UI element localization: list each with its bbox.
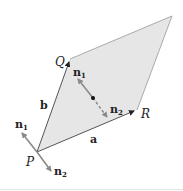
vertex-normal-n1-arrow <box>22 133 37 152</box>
vertex-normal-n2-label: n2 <box>54 165 67 179</box>
vertex-normal-n2-arrow <box>37 152 51 171</box>
vertex-normal-n1-label: n1 <box>15 118 28 132</box>
parallelogram-face <box>37 16 172 152</box>
edge-label-a: a <box>90 133 97 146</box>
bottom-divider <box>0 189 183 190</box>
vertex-label-P: P <box>25 155 35 169</box>
vertex-label-R: R <box>140 107 150 121</box>
vertex-label-Q: Q <box>55 55 65 69</box>
parallelogram-diagram: Q R P b a n1 n2 n1 n2 <box>0 0 183 191</box>
center-point <box>91 96 95 100</box>
edge-label-b: b <box>40 99 48 112</box>
